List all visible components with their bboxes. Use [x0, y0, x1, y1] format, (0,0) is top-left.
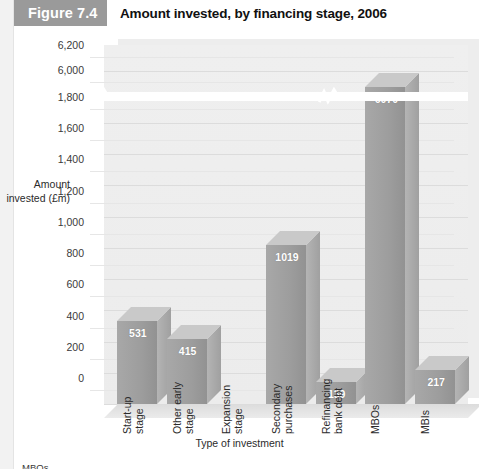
y-axis-tick-label: 800 — [38, 247, 84, 259]
bar-value-label: 1019 — [270, 251, 304, 263]
y-axis-tick-label: 1,600 — [38, 122, 84, 134]
x-axis-tick-label: MBIs — [419, 410, 431, 434]
x-axis-tick-label: Start-upstage — [121, 397, 145, 434]
bar[interactable]: 6070 — [365, 87, 405, 404]
x-axis-tick-label: Refinancingbank debt — [320, 379, 344, 434]
x-axis-tick-label-line: Refinancing — [320, 379, 332, 434]
y-axis-tick-label: 1,000 — [38, 216, 84, 228]
bar[interactable]: 1019 — [266, 245, 306, 404]
x-axis-tick-label-line: Start-up — [121, 397, 133, 434]
x-axis-tick-label-line: MBOs — [369, 405, 381, 434]
figure-footnote: MBOs — [22, 462, 472, 469]
x-axis-tick-label-line: Other early — [171, 382, 183, 434]
axis-break-zigzag-bar — [318, 86, 340, 108]
bar[interactable]: 531 — [117, 321, 157, 404]
axis-break-zigzag-left — [88, 86, 110, 108]
y-axis-tick-label: 600 — [38, 278, 84, 290]
x-axis-tick-label: Secondarypurchases — [270, 384, 294, 434]
x-axis-tick-label-line: purchases — [282, 384, 294, 434]
bar[interactable]: 217 — [415, 370, 455, 404]
x-axis-tick-label-line: Secondary — [270, 384, 282, 434]
y-axis-tick-label: 200 — [38, 341, 84, 353]
x-axis-tick-label-line: stage — [183, 382, 195, 434]
bar-value-label: 531 — [121, 327, 155, 339]
y-axis-title-line-2: invested — [6, 192, 45, 204]
page-edge-strip — [0, 0, 14, 469]
x-axis-tick-label: Expansionstage — [220, 385, 244, 434]
figure-title: Amount invested, by financing stage, 200… — [107, 0, 479, 26]
y-axis-tick-label: 6,200 — [38, 39, 84, 51]
x-axis-tick-label-line: stage — [232, 385, 244, 434]
y-axis-tick-label: 1,800 — [38, 91, 84, 103]
gridline — [104, 71, 468, 72]
y-axis-tick-label: 6,000 — [38, 64, 84, 76]
bar-value-label: 217 — [419, 376, 453, 388]
x-axis-tick-label-line: MBIs — [419, 410, 431, 434]
y-axis-ticks: 6,2006,0001,8001,6001,4001,2001,00080060… — [34, 0, 84, 424]
bar-side-face — [405, 73, 419, 404]
x-axis-tick-label-line: bank debt — [332, 379, 344, 434]
x-axis-tick-label-line: Expansion — [220, 385, 232, 434]
x-axis-tick-label: MBOs — [369, 405, 381, 434]
gridline-back — [90, 57, 454, 58]
bar-side-face — [306, 231, 320, 404]
y-axis-tick-label: 1,400 — [38, 153, 84, 165]
y-axis-break-band — [90, 92, 468, 101]
y-axis-tick-label: 400 — [38, 310, 84, 322]
bar-front-face — [365, 87, 405, 404]
x-axis-title: Type of investment — [0, 437, 479, 449]
bar-front-face — [266, 245, 306, 404]
y-axis-title: Amount invested (£m) — [2, 178, 70, 205]
y-axis-title-line-3: (£m) — [48, 192, 70, 204]
x-axis-tick-label-line: stage — [133, 397, 145, 434]
y-axis-title-line-1: Amount — [34, 178, 70, 190]
y-axis-tick-label: 0 — [38, 372, 84, 384]
bar-value-label: 415 — [171, 345, 205, 357]
x-axis-tick-label: Other earlystage — [171, 382, 195, 434]
